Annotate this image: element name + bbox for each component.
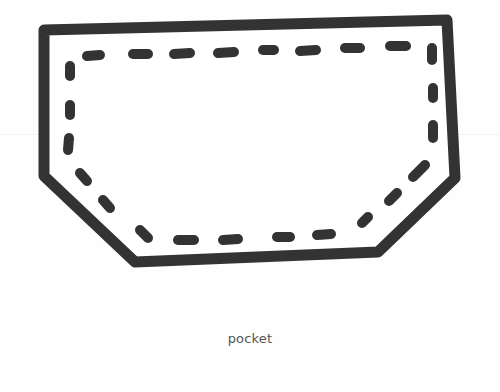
pocket-outline [44,20,455,262]
caption-label: pocket [0,331,500,346]
printable-sheet: pocket [0,0,500,392]
